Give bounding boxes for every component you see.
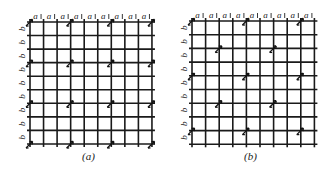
column-spacing-label: a (209, 10, 214, 20)
row-spacing-label: b (17, 67, 27, 72)
row-spacing-label: b (17, 107, 27, 112)
row-spacing-label: b (179, 39, 189, 44)
column-spacing-label: a (128, 11, 133, 21)
row-spacing-label: b (17, 26, 27, 31)
row-spacing-label: b (17, 121, 27, 126)
caption-b: (b) (244, 150, 257, 162)
row-spacing-label: b (17, 134, 27, 139)
column-spacing-label: a (291, 10, 296, 20)
column-spacing-label: a (263, 10, 268, 20)
row-spacing-label: b (17, 94, 27, 99)
row-spacing-label: b (17, 40, 27, 45)
row-spacing-label: b (179, 94, 189, 99)
row-spacing-label: b (179, 107, 189, 112)
column-spacing-label: a (33, 11, 38, 21)
column-spacing-label: a (101, 11, 106, 21)
row-spacing-label: b (179, 25, 189, 30)
column-spacing-label: a (47, 11, 52, 21)
column-spacing-label: a (195, 10, 200, 20)
row-spacing-label: b (179, 135, 189, 140)
column-spacing-label: a (142, 11, 147, 21)
column-spacing-label: a (60, 11, 65, 21)
column-spacing-label: a (74, 11, 79, 21)
row-spacing-label: b (179, 80, 189, 85)
row-spacing-label: b (179, 121, 189, 126)
caption-a: (a) (82, 150, 95, 162)
row-spacing-label: b (17, 80, 27, 85)
row-spacing-label: b (179, 53, 189, 58)
panel-a-primitive-lattice: aaaaaaaaabbbbbbbbb (17, 11, 155, 148)
column-spacing-label: a (304, 10, 309, 20)
row-spacing-label: b (179, 66, 189, 71)
column-spacing-label: a (223, 10, 228, 20)
column-spacing-label: a (236, 10, 241, 20)
panel-b-centered-lattice: aaaaaaaaabbbbbbbbb (179, 10, 317, 147)
column-spacing-label: a (250, 10, 255, 20)
column-spacing-label: a (277, 10, 282, 20)
row-spacing-label: b (17, 53, 27, 58)
column-spacing-label: a (87, 11, 92, 21)
column-spacing-label: a (115, 11, 120, 21)
lattice-figure: aaaaaaaaabbbbbbbbb aaaaaaaaabbbbbbbbb (0, 0, 331, 177)
